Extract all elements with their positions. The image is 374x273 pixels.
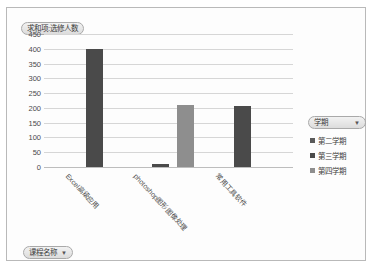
pivot-category-field-button[interactable]: 课程名称 ▼ xyxy=(23,246,73,259)
pivot-legend-field-label: 学期 xyxy=(314,117,328,129)
pivot-chart-frame[interactable]: 求和项:选修人数 450400350300250200150100500 Exc… xyxy=(6,7,366,261)
x-axis-category-label: Excel高级应用 xyxy=(64,171,102,211)
legend-swatch-icon xyxy=(310,138,315,143)
bar[interactable] xyxy=(177,105,194,167)
pivot-legend-field-button[interactable]: 学期 ▼ xyxy=(308,116,366,129)
y-axis: 450400350300250200150100500 xyxy=(15,34,41,167)
y-axis-tick-label: 0 xyxy=(37,163,41,172)
y-axis-tick-label: 50 xyxy=(33,148,41,157)
y-axis-tick-label: 350 xyxy=(28,59,41,68)
legend-item: 第四学期 xyxy=(310,163,372,178)
chart-legend: 第二学期第三学期第四学期 xyxy=(310,133,372,178)
x-axis-category-label: photoshop图形图像处理 xyxy=(131,171,189,232)
y-axis-tick-label: 250 xyxy=(28,89,41,98)
chevron-down-icon[interactable]: ▼ xyxy=(61,250,67,256)
legend-item: 第三学期 xyxy=(310,148,372,163)
bar[interactable] xyxy=(152,164,169,167)
y-axis-tick-label: 150 xyxy=(28,118,41,127)
y-axis-tick-label: 450 xyxy=(28,30,41,39)
legend-swatch-icon xyxy=(310,168,315,173)
bar-series-group[interactable] xyxy=(44,34,293,167)
bar[interactable] xyxy=(234,106,251,167)
legend-item-label: 第二学期 xyxy=(318,135,346,146)
chevron-down-icon[interactable]: ▼ xyxy=(354,120,360,126)
y-axis-tick-label: 400 xyxy=(28,44,41,53)
bar[interactable] xyxy=(86,49,103,167)
legend-item-label: 第三学期 xyxy=(318,150,346,161)
legend-item-label: 第四学期 xyxy=(318,165,346,176)
legend-swatch-icon xyxy=(310,153,315,158)
plot-area[interactable] xyxy=(44,34,293,167)
x-axis: Excel高级应用photoshop图形图像处理常用工具软件 xyxy=(44,169,293,239)
x-axis-category-label: 常用工具软件 xyxy=(213,171,249,209)
legend-item: 第二学期 xyxy=(310,133,372,148)
y-axis-tick-label: 200 xyxy=(28,103,41,112)
y-axis-tick-label: 100 xyxy=(28,133,41,142)
axis-baseline xyxy=(44,167,293,168)
pivot-category-field-label: 课程名称 xyxy=(29,247,57,259)
y-axis-tick-label: 300 xyxy=(28,74,41,83)
